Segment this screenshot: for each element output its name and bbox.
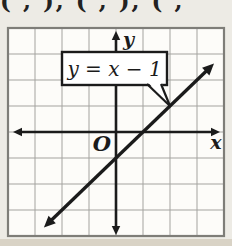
equation-label: y = x − 1 <box>66 57 161 81</box>
x-axis-label: x <box>209 131 222 153</box>
page-shadow-band <box>0 239 232 246</box>
coordinate-grid-figure: y = x − 1yxO <box>0 0 232 246</box>
y-axis-label: y <box>122 28 136 50</box>
scanned-textbook-figure: ( , ), ( , ), ( , y = x − 1yxO <box>0 0 232 246</box>
origin-label: O <box>93 131 112 156</box>
